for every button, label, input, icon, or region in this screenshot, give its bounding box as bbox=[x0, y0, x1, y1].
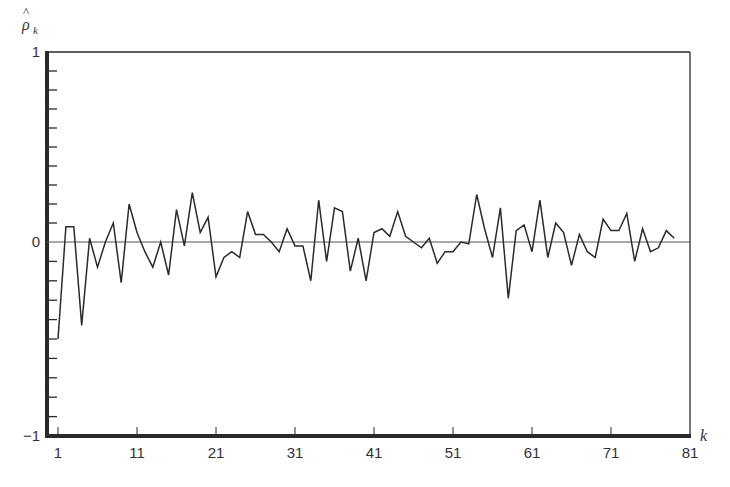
x-axis-tick-labels: 11121314151617181 bbox=[54, 444, 699, 461]
x-tick-label: 51 bbox=[445, 444, 462, 461]
y-tick-label: 0 bbox=[32, 233, 40, 250]
x-tick-label: 61 bbox=[524, 444, 541, 461]
autocorrelation-chart: 11121314151617181 10−1 ^ ρ k k bbox=[0, 0, 730, 487]
plot-frame bbox=[46, 51, 691, 438]
x-tick-label: 71 bbox=[603, 444, 620, 461]
y-tick-label: 1 bbox=[32, 43, 40, 60]
x-tick-label: 31 bbox=[287, 444, 304, 461]
y-axis-label-subscript: k bbox=[33, 24, 39, 36]
x-tick-label: 11 bbox=[129, 444, 145, 461]
y-axis-label: ^ ρ k bbox=[21, 4, 39, 36]
x-tick-label: 81 bbox=[682, 444, 699, 461]
x-tick-label: 41 bbox=[366, 444, 383, 461]
y-axis-label-symbol: ρ bbox=[21, 16, 30, 34]
autocorrelation-series-line bbox=[58, 193, 674, 339]
x-axis-label: k bbox=[700, 427, 708, 444]
x-tick-label: 1 bbox=[54, 444, 62, 461]
y-axis-tick-labels: 10−1 bbox=[23, 43, 40, 444]
y-tick-label: −1 bbox=[23, 427, 40, 444]
x-tick-label: 21 bbox=[208, 444, 225, 461]
